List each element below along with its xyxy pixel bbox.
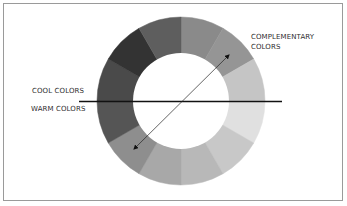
complementary-colors-label: COMPLEMENTARY COLORS [251,32,314,52]
complementary-label-line2: COLORS [251,42,314,52]
color-wheel [0,0,347,206]
cool-colors-label: COOL COLORS [32,86,84,96]
warm-colors-label: WARM COLORS [31,104,85,114]
complementary-label-line1: COMPLEMENTARY [251,32,314,42]
